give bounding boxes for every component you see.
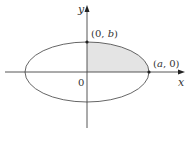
top-point-open: (0, [91, 28, 108, 39]
x-axis-label: x [178, 76, 185, 89]
shaded-quarter-region [87, 42, 149, 72]
x-axis-arrow-icon [178, 70, 185, 75]
y-axis-label: y [77, 3, 85, 16]
y-axis-arrow-icon [85, 5, 90, 12]
top-point-close: ) [114, 28, 118, 39]
top-point-label: (0, b) [91, 28, 118, 39]
right-point-label: (a, 0) [153, 58, 180, 69]
origin-label: 0 [78, 77, 84, 88]
ellipse-diagram: y x 0 (0, b) (a, 0) [0, 0, 190, 141]
right-point-close: , 0) [163, 58, 180, 69]
point-right-vertex [147, 70, 150, 73]
point-top-vertex [85, 40, 88, 43]
